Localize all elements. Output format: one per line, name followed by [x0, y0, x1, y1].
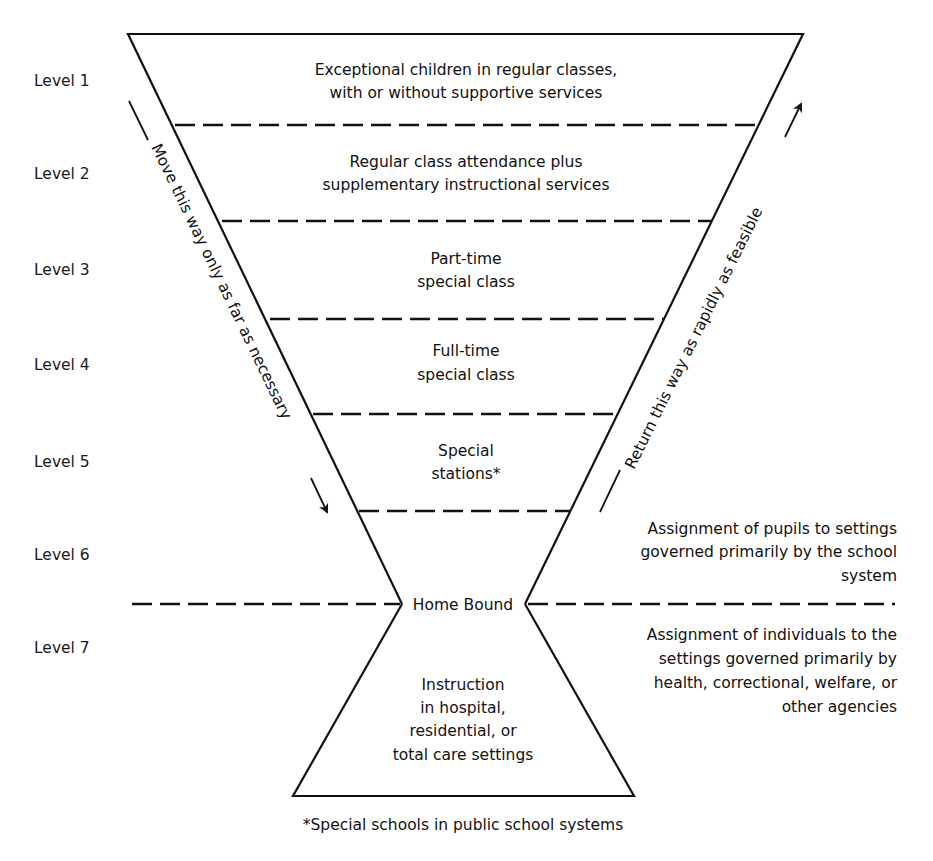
return-up-arrow-head	[785, 104, 801, 137]
level-5-line-2: stations*	[431, 465, 500, 483]
cascade-of-services-diagram: Level 1 Level 2 Level 3 Level 4 Level 5 …	[0, 0, 933, 861]
level-6-label: Level 6	[34, 546, 90, 564]
level-7-line-3: residential, or	[409, 722, 517, 740]
return-up-arrow: Return this way as rapidly as feasible	[600, 104, 801, 512]
level-4-description: Full-time special class	[417, 342, 515, 384]
school-system-note-line-3: system	[841, 567, 897, 585]
level-1-description: Exceptional children in regular classes,…	[315, 61, 618, 102]
level-5-line-1: Special	[438, 442, 494, 460]
return-up-arrow-tail	[600, 470, 620, 512]
level-4-label: Level 4	[34, 356, 90, 374]
other-agencies-note-line-3: health, correctional, welfare, or	[654, 674, 898, 692]
level-7-description: Instruction in hospital, residential, or…	[393, 676, 534, 764]
level-2-label: Level 2	[34, 165, 90, 183]
level-1-line-1: Exceptional children in regular classes,	[315, 61, 618, 79]
level-7-line-1: Instruction	[422, 676, 505, 694]
school-system-note-line-1: Assignment of pupils to settings	[648, 520, 897, 538]
other-agencies-note-line-1: Assignment of individuals to the	[647, 626, 897, 644]
other-agencies-note-line-4: other agencies	[782, 698, 897, 716]
level-1-label: Level 1	[34, 72, 90, 90]
other-agencies-note-line-2: settings governed primarily by	[659, 650, 897, 668]
level-7-label: Level 7	[34, 639, 90, 657]
level-7-line-2: in hospital,	[420, 699, 505, 717]
level-3-label: Level 3	[34, 261, 90, 279]
level-2-line-2: supplementary instructional services	[323, 176, 610, 194]
level-4-line-1: Full-time	[432, 342, 499, 360]
level-1-line-2: with or without supportive services	[330, 84, 603, 102]
move-down-arrow-text: Move this way only as far as necessary	[147, 141, 295, 422]
school-system-note-line-2: governed primarily by the school	[641, 543, 897, 561]
return-up-arrow-text: Return this way as rapidly as feasible	[621, 204, 766, 471]
move-down-arrow: Move this way only as far as necessary	[129, 101, 327, 512]
level-2-description: Regular class attendance plus supplement…	[323, 153, 610, 194]
other-agencies-note: Assignment of individuals to the setting…	[647, 626, 898, 716]
move-down-arrow-head	[311, 478, 327, 512]
level-2-line-1: Regular class attendance plus	[350, 153, 583, 171]
level-5-label: Level 5	[34, 453, 90, 471]
school-system-note: Assignment of pupils to settings governe…	[641, 520, 897, 585]
level-7-line-4: total care settings	[393, 746, 534, 764]
move-down-arrow-tail	[129, 101, 148, 140]
home-bound-label: Home Bound	[413, 596, 513, 614]
level-3-description: Part-time special class	[417, 250, 515, 291]
footnote: *Special schools in public school system…	[303, 816, 624, 834]
level-3-line-2: special class	[417, 273, 515, 291]
level-3-line-1: Part-time	[430, 250, 501, 268]
level-5-description: Special stations*	[431, 442, 500, 483]
level-4-line-2: special class	[417, 366, 515, 384]
